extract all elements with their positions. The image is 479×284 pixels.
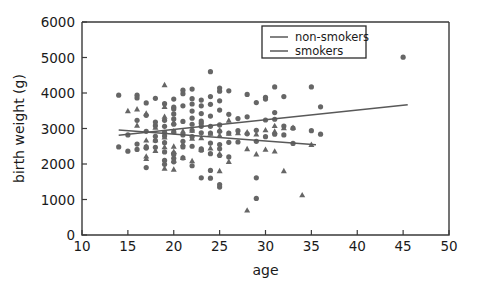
data-point-circle xyxy=(190,96,195,101)
data-point-circle xyxy=(171,106,176,111)
data-point-circle xyxy=(281,132,286,137)
data-point-triangle xyxy=(134,106,140,111)
data-point-circle xyxy=(208,168,213,173)
data-point-circle xyxy=(190,122,195,127)
x-tick-label: 50 xyxy=(440,238,457,254)
data-point-triangle xyxy=(143,137,149,142)
y-tick-label: 3000 xyxy=(41,121,75,137)
data-point-circle xyxy=(134,147,139,152)
x-tick-label: 20 xyxy=(165,238,182,254)
data-point-circle xyxy=(134,95,139,100)
data-point-triangle xyxy=(171,143,177,148)
data-point-triangle xyxy=(244,207,250,212)
data-point-triangle xyxy=(263,146,269,151)
data-point-circle xyxy=(217,98,222,103)
data-point-circle xyxy=(226,88,231,93)
data-point-circle xyxy=(272,84,277,89)
data-point-circle xyxy=(171,111,176,116)
data-point-circle xyxy=(180,91,185,96)
x-tick-label: 30 xyxy=(257,238,274,254)
data-point-circle xyxy=(235,139,240,144)
scatter-plot: 1015202530354045500100020003000400050006… xyxy=(0,0,479,284)
data-point-circle xyxy=(208,176,213,181)
y-tick-label: 1000 xyxy=(41,192,75,208)
data-point-circle xyxy=(116,144,121,149)
data-point-circle xyxy=(208,151,213,156)
y-tick-label: 4000 xyxy=(41,85,75,101)
data-point-circle xyxy=(199,175,204,180)
data-point-triangle xyxy=(253,151,259,156)
x-tick-label: 10 xyxy=(73,238,90,254)
data-point-circle xyxy=(217,184,222,189)
series-non-smokers xyxy=(116,55,406,201)
data-point-circle xyxy=(318,104,323,109)
data-point-circle xyxy=(401,55,406,60)
data-point-circle xyxy=(144,100,149,105)
data-point-circle xyxy=(208,113,213,118)
data-point-triangle xyxy=(207,145,213,150)
data-point-triangle xyxy=(263,127,269,132)
data-point-triangle xyxy=(134,122,140,127)
data-point-circle xyxy=(171,96,176,101)
data-point-triangle xyxy=(125,108,131,113)
legend-label-non-smokers: non-smokers xyxy=(295,30,369,44)
data-point-triangle xyxy=(244,129,250,134)
chart-figure: 1015202530354045500100020003000400050006… xyxy=(0,0,479,284)
data-point-circle xyxy=(318,132,323,137)
data-point-triangle xyxy=(281,168,287,173)
data-point-circle xyxy=(254,196,259,201)
data-point-circle xyxy=(144,165,149,170)
data-point-triangle xyxy=(272,128,278,133)
data-point-circle xyxy=(180,119,185,124)
data-point-circle xyxy=(162,149,167,154)
data-point-circle xyxy=(208,69,213,74)
data-point-circle xyxy=(134,118,139,123)
axis-labels-layer: 1015202530354045500100020003000400050006… xyxy=(11,14,458,278)
data-point-circle xyxy=(217,107,222,112)
y-tick-label: 2000 xyxy=(41,156,75,172)
data-point-triangle xyxy=(143,110,149,115)
data-point-circle xyxy=(116,93,121,98)
y-tick-label: 6000 xyxy=(41,14,75,30)
data-point-circle xyxy=(309,128,314,133)
data-point-triangle xyxy=(171,149,177,154)
data-point-triangle xyxy=(217,168,223,173)
data-point-circle xyxy=(226,140,231,145)
data-point-triangle xyxy=(162,113,168,118)
data-point-circle xyxy=(190,109,195,114)
data-point-triangle xyxy=(217,151,223,156)
data-point-circle xyxy=(263,96,268,101)
data-point-circle xyxy=(134,142,139,147)
data-point-triangle xyxy=(226,159,232,164)
data-point-triangle xyxy=(299,192,305,197)
data-point-circle xyxy=(199,111,204,116)
data-point-triangle xyxy=(162,165,168,170)
legend-label-smokers: smokers xyxy=(295,44,343,58)
data-point-circle xyxy=(190,101,195,106)
data-point-circle xyxy=(208,94,213,99)
data-point-triangle xyxy=(253,131,259,136)
data-point-circle xyxy=(235,116,240,121)
data-point-triangle xyxy=(244,146,250,151)
data-point-triangle xyxy=(226,117,232,122)
data-point-triangle xyxy=(171,166,177,171)
x-axis-title: age xyxy=(252,262,278,278)
data-point-circle xyxy=(125,149,130,154)
data-point-circle xyxy=(190,116,195,121)
data-point-triangle xyxy=(272,148,278,153)
data-point-circle xyxy=(199,130,204,135)
x-tick-label: 25 xyxy=(211,238,228,254)
y-tick-label: 0 xyxy=(66,227,75,243)
data-point-circle xyxy=(309,84,314,89)
data-point-circle xyxy=(281,94,286,99)
data-point-circle xyxy=(208,102,213,107)
x-tick-label: 45 xyxy=(395,238,412,254)
data-point-circle xyxy=(199,98,204,103)
chart-legend: non-smokerssmokers xyxy=(262,26,369,58)
x-tick-label: 15 xyxy=(119,238,136,254)
data-point-triangle xyxy=(217,127,223,132)
data-point-circle xyxy=(245,114,250,119)
data-point-triangle xyxy=(162,144,168,149)
data-point-circle xyxy=(208,140,213,145)
data-point-circle xyxy=(245,92,250,97)
